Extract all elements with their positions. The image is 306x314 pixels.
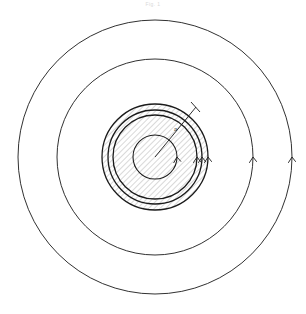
radius-end-tick xyxy=(191,102,200,112)
concentric-circles-diagram: a xyxy=(0,0,306,314)
figure-root: Fig. 1 a xyxy=(0,0,306,314)
